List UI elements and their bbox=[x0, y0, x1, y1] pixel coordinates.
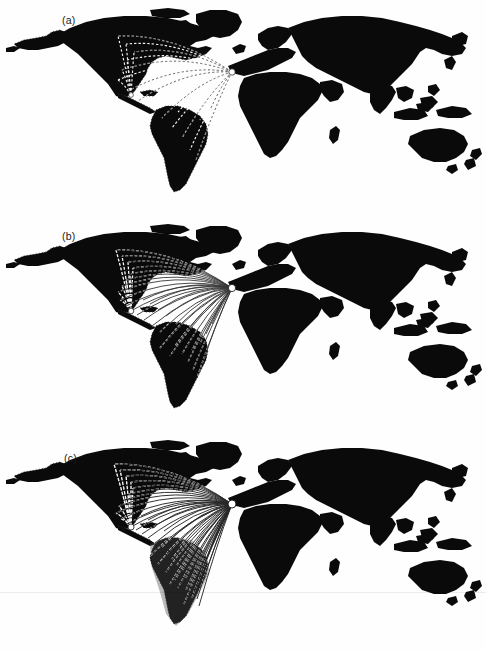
hub-node-iberia bbox=[228, 500, 236, 508]
panel-label-a: (a) bbox=[62, 14, 75, 26]
panel-label-c: (c) bbox=[64, 452, 77, 464]
map-svg-c bbox=[0, 432, 486, 648]
hub-node-iberia bbox=[229, 69, 235, 75]
map-panel-a: (a) bbox=[0, 0, 486, 216]
map-svg-b bbox=[0, 216, 486, 432]
hub-node-iberia bbox=[228, 284, 235, 291]
figure-container: (a) bbox=[0, 0, 486, 650]
map-panel-b: (b) bbox=[0, 216, 486, 432]
caribbean-node bbox=[128, 308, 134, 314]
caribbean-node bbox=[128, 524, 134, 530]
panel-label-b: (b) bbox=[62, 230, 75, 242]
map-svg-a bbox=[0, 0, 486, 216]
map-panel-c: (c) bbox=[0, 432, 486, 648]
caribbean-node bbox=[129, 93, 134, 98]
